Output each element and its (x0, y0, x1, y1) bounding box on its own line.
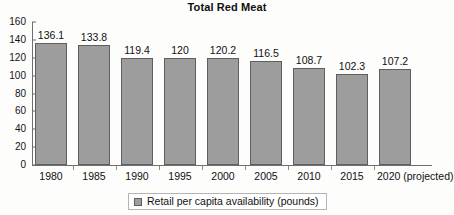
bar-value-label: 116.5 (244, 48, 288, 59)
y-tick-label: 40 (0, 124, 26, 134)
bar-value-label: 120 (158, 45, 202, 56)
y-tick-label: 140 (0, 35, 26, 45)
bar-value-label: 102.3 (330, 61, 374, 72)
bar (78, 45, 110, 165)
bar (35, 43, 67, 165)
x-axis-line (32, 165, 432, 166)
x-tick-label: 2015 (328, 170, 376, 182)
bar-value-label: 119.4 (115, 45, 159, 56)
bar-value-label: 133.8 (72, 32, 116, 43)
bar (207, 58, 239, 165)
chart-container: Total Red Meat 020406080100120140160 198… (0, 0, 454, 215)
x-tick-label: 1995 (156, 170, 204, 182)
y-tick-label: 120 (0, 53, 26, 63)
plot-area (32, 22, 440, 165)
bar-value-label: 136.1 (29, 30, 73, 41)
y-tick-label: 100 (0, 71, 26, 81)
chart-title: Total Red Meat (0, 1, 454, 13)
x-tick-label: 2000 (199, 170, 247, 182)
y-tick-label: 60 (0, 106, 26, 116)
x-tick-label: 1985 (70, 170, 118, 182)
legend-swatch-icon (134, 198, 142, 206)
x-tick-label: 2005 (242, 170, 290, 182)
x-tick-label: 1990 (113, 170, 161, 182)
chart-legend: Retail per capita availability (pounds) (128, 193, 327, 210)
x-tick-label: 2020 (projected) (377, 170, 454, 182)
y-tick-label: 20 (0, 142, 26, 152)
legend-label: Retail per capita availability (pounds) (147, 196, 319, 207)
bar-value-label: 107.2 (373, 56, 417, 67)
bar (336, 74, 368, 165)
bar (164, 58, 196, 165)
bar (293, 68, 325, 165)
bar-value-label: 108.7 (287, 55, 331, 66)
y-tick-label: 80 (0, 89, 26, 99)
x-tick-label: 2010 (285, 170, 333, 182)
y-tick-label: 160 (0, 17, 26, 27)
y-tick-label: 0 (0, 160, 26, 170)
bar (250, 61, 282, 165)
bar-value-label: 120.2 (201, 45, 245, 56)
bar (121, 58, 153, 165)
x-tick-label: 1980 (27, 170, 75, 182)
bar (379, 69, 411, 165)
